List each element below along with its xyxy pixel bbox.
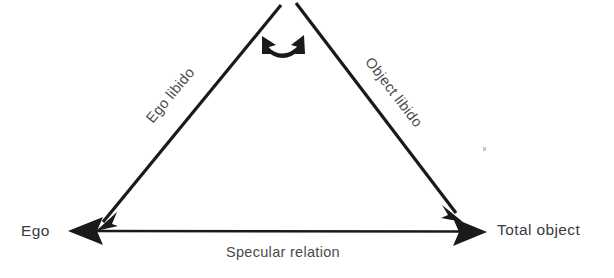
apex-arc-curve — [266, 47, 300, 56]
ego-libido-line — [103, 5, 281, 222]
apex-double-arrow — [262, 35, 305, 56]
diagram-canvas: Ego Total object Ego libido Object libid… — [0, 0, 614, 278]
scan-speck-artifact — [483, 147, 486, 151]
edge-object-libido — [296, 3, 463, 222]
edge-ego-libido — [96, 5, 281, 231]
specular-relation-line — [86, 231, 470, 232]
node-label-ego: Ego — [21, 223, 50, 239]
edge-label-specular-relation: Specular relation — [226, 245, 340, 260]
node-label-total-object: Total object — [497, 222, 580, 238]
object-libido-line — [296, 3, 456, 213]
edge-specular-relation — [68, 217, 487, 246]
